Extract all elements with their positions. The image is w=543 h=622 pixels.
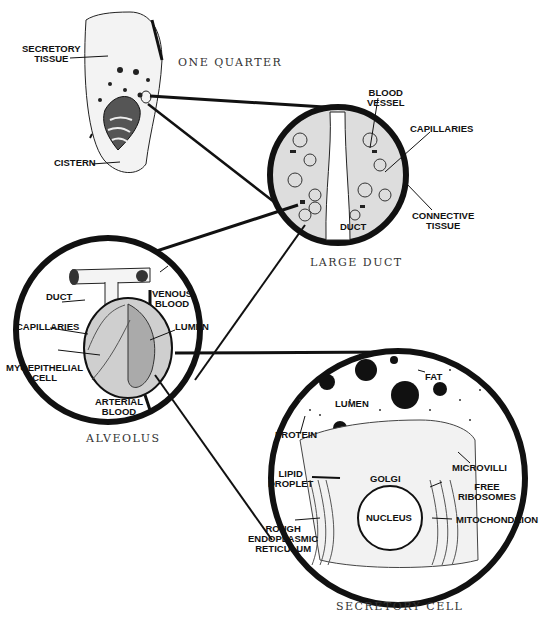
- caption-secretory-cell: SECRETORY CELL: [336, 600, 463, 613]
- label-arterial-blood: ARTERIAL BLOOD: [95, 397, 143, 417]
- label-duct-alveolus: DUCT: [46, 292, 72, 302]
- label-secretory-tissue: SECRETORY TISSUE: [22, 44, 81, 64]
- quarter-illustration: [85, 12, 162, 173]
- label-microvilli: MICROVILLI: [452, 463, 507, 473]
- label-venous-blood: VENOUS BLOOD: [152, 289, 192, 309]
- label-fat: FAT: [425, 372, 442, 382]
- label-nucleus: NUCLEUS: [366, 513, 412, 523]
- label-lumen-alveolus: LUMEN: [175, 322, 209, 332]
- label-duct-large: DUCT: [340, 222, 366, 232]
- label-lumen-cell: LUMEN: [335, 399, 369, 409]
- label-capillaries: CAPILLARIES: [410, 124, 473, 134]
- label-protein: PROTEIN: [275, 430, 317, 440]
- label-golgi: GOLGI: [370, 474, 401, 484]
- label-lipid-droplet: LIPID DROPLET: [268, 469, 313, 489]
- caption-alveolus: ALVEOLUS: [86, 432, 160, 445]
- label-myoepithelial-cell: MYOEPITHELIAL CELL: [6, 363, 83, 383]
- caption-one-quarter: ONE QUARTER: [178, 56, 282, 69]
- label-cistern: CISTERN: [54, 158, 96, 168]
- label-free-ribosomes: FREE RIBOSOMES: [458, 482, 516, 502]
- large-duct-illustration: [270, 107, 406, 243]
- label-connective-tissue: CONNECTIVE TISSUE: [412, 211, 474, 231]
- label-mitochondrion: MITOCHONDRION: [456, 515, 538, 525]
- label-blood-vessel: BLOOD VESSEL: [367, 88, 405, 108]
- mammary-gland-diagram: SECRETORY TISSUE CISTERN ONE QUARTER BLO…: [0, 0, 543, 622]
- label-rough-er: ROUGH ENDOPLASMIC RETICULUM: [248, 524, 318, 554]
- label-capillaries-alveolus: CAPILLARIES: [16, 322, 79, 332]
- caption-large-duct: LARGE DUCT: [310, 256, 403, 269]
